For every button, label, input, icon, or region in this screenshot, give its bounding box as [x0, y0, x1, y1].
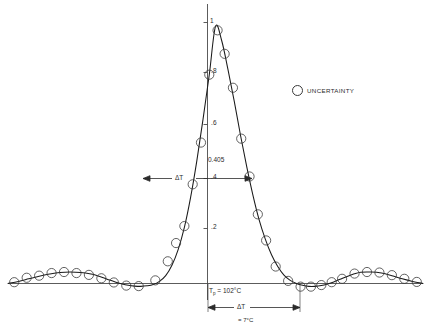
uncertainty-marker: [228, 83, 237, 92]
peak-temp-subscript: p: [213, 291, 216, 296]
delta-t-value-label: = 7°C: [238, 317, 253, 323]
uncertainty-marker: [196, 138, 205, 147]
delta-t-upper-dimension-arrow: [143, 176, 252, 182]
delta-t-upper-label: ΔT: [175, 175, 183, 182]
uncertainty-marker: [72, 268, 81, 277]
legend: UNCERTAINTY: [292, 85, 354, 96]
peak-temperature-label: Tp = 102°C: [209, 288, 241, 297]
half-width-value-label: 0.405: [208, 157, 224, 164]
delta-t-lower-label: ΔT: [237, 304, 245, 311]
peak-temp-value: = 102°C: [217, 287, 241, 294]
pulse-profile-figure: 1 .8 .6 .4 .2 0.405 ΔT ΔT Tp = 102°C = 7…: [0, 0, 431, 333]
ytick-label-04: .4: [211, 174, 217, 181]
y-axis-ticks: [204, 23, 208, 229]
ytick-label-06: .6: [211, 120, 217, 127]
chart-canvas: [0, 0, 431, 333]
uncertainty-marker: [163, 257, 172, 266]
legend-label-uncertainty: UNCERTAINTY: [307, 87, 354, 94]
uncertainty-marker: [84, 270, 93, 279]
ytick-label-1: 1: [210, 18, 214, 25]
uncertainty-marker: [22, 273, 31, 282]
uncertainty-marker: [171, 238, 180, 247]
ytick-label-08: .8: [211, 68, 217, 75]
ytick-label-02: .2: [211, 224, 217, 231]
uncertainty-circle-icon: [292, 85, 303, 96]
